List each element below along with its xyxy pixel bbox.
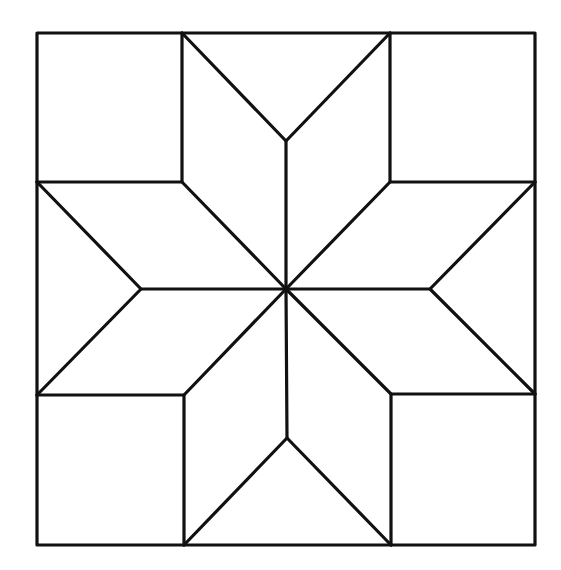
corner-square-top-left xyxy=(37,33,182,182)
triangle-right xyxy=(430,182,535,394)
corner-square-bottom-left xyxy=(37,395,184,545)
corner-square-bottom-right xyxy=(391,394,535,545)
triangle-left xyxy=(37,182,141,395)
spoke-top-right xyxy=(286,182,390,289)
quilt-star-diagram xyxy=(0,0,561,570)
corner-square-top-right xyxy=(390,33,535,182)
spoke-bottom-right xyxy=(286,289,391,394)
spoke-bottom-left xyxy=(184,289,286,395)
star-spokes xyxy=(141,141,430,438)
triangle-bottom xyxy=(184,438,391,545)
triangle-top xyxy=(182,33,390,141)
spoke-bottom xyxy=(286,289,287,438)
spoke-top-left xyxy=(182,182,286,289)
